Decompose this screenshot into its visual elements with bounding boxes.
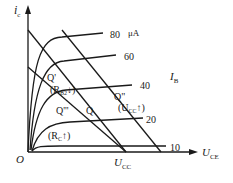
q-triple-prime-label: Q''' — [56, 105, 69, 116]
y-axis-arrow-icon — [25, 5, 31, 14]
ib-60-label: 60 — [124, 51, 134, 62]
ib-family-label: IB — [169, 70, 179, 85]
rb2-note: (RB2↓) — [50, 84, 75, 96]
diagram-svg: ic UCE O UCC IB 80 μA 60 40 20 10 Q' (RB… — [0, 0, 233, 183]
ib-40-label: 40 — [140, 80, 150, 91]
load-line-diagram: ic UCE O UCC IB 80 μA 60 40 20 10 Q' (RB… — [0, 0, 233, 183]
curve-ib-10 — [32, 146, 166, 151]
q-prime-label: Q' — [47, 72, 56, 83]
x-axis-label: UCE — [202, 146, 219, 161]
x-axis-arrow-icon — [189, 149, 198, 155]
ib-10-label: 10 — [170, 142, 180, 153]
q-label: Q — [86, 105, 94, 116]
y-axis-label: ic — [14, 3, 20, 19]
ib-80-label: 80 — [110, 29, 120, 40]
ucc-tick-label: UCC — [114, 156, 132, 171]
ib-20-label: 20 — [146, 114, 156, 125]
q-double-prime-label: Q" — [114, 91, 125, 102]
origin-label: O — [16, 153, 24, 165]
ib-unit-label: μA — [128, 28, 140, 38]
curve-ib-60 — [30, 55, 116, 150]
rc-note: (RC↑) — [48, 130, 70, 142]
load-line-rc-up — [28, 67, 126, 152]
ucc-note: (UCC↑) — [118, 102, 145, 114]
